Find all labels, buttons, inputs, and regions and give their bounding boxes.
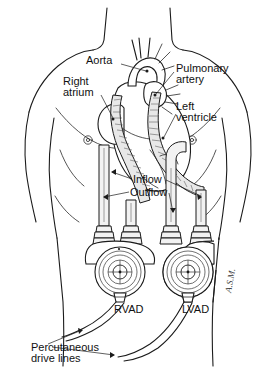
left-flank (49, 118, 57, 238)
lvad-driveline-port-2 (182, 293, 194, 302)
brachiocephalic-branch (132, 40, 137, 60)
label-right-atrium-line2: atrium (63, 86, 94, 98)
arch-branch-small (155, 44, 162, 59)
label-percutaneous-line2: drive lines (31, 352, 81, 364)
cannula-tube-1 (99, 145, 109, 226)
rvad-pump (85, 241, 154, 302)
illustration-canvas: Aorta Right atrium Pulmonary artery Left… (0, 0, 275, 373)
aortic-arch (128, 38, 174, 86)
driveline-rvad-upper (62, 302, 116, 337)
left-lower-contour (55, 196, 79, 222)
label-pulmonary-artery-line2: artery (176, 73, 205, 85)
label-left-ventricle-line2: ventricle (176, 111, 217, 123)
cannula-tube-2 (126, 200, 136, 226)
left-subclavian-branch (148, 38, 150, 57)
left-rib-contour (60, 150, 84, 186)
label-outflow: Outflow (130, 186, 167, 198)
label-aorta: Aorta (86, 54, 113, 66)
label-inflow: Inflow (133, 173, 162, 185)
label-lvad: LVAD (182, 303, 209, 315)
connector-3 (160, 226, 182, 244)
arch-branch-small-2 (159, 52, 170, 63)
rvad-driveline-port (114, 293, 126, 302)
left-arm-outer (25, 112, 36, 222)
neck-left-edge (93, 8, 107, 50)
svg-text:A.S.M.: A.S.M. (223, 268, 237, 295)
right-rib-contour (192, 150, 216, 186)
neck-right-edge (170, 8, 183, 50)
pa-mark-2 (167, 94, 180, 96)
bivad-diagram-svg: Aorta Right atrium Pulmonary artery Left… (0, 0, 275, 373)
right-arm-outer (240, 112, 251, 222)
artist-signature: A.S.M. (223, 268, 237, 295)
left-carotid-branch (139, 38, 141, 58)
label-rvad: RVAD (114, 303, 144, 315)
pa-mark-1 (166, 85, 178, 90)
right-flank (219, 118, 227, 238)
